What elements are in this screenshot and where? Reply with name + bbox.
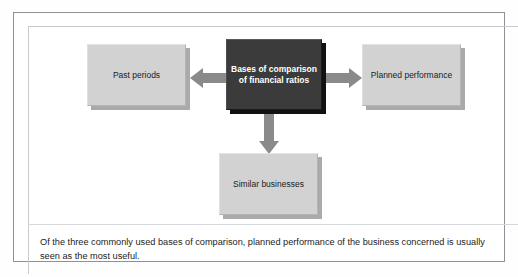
node-face: Similar businesses bbox=[219, 153, 318, 215]
arrow-right-head bbox=[349, 68, 362, 88]
node-face: Planned performance bbox=[362, 44, 461, 106]
node-similar-businesses: Similar businesses bbox=[219, 153, 318, 215]
node-planned-performance-label: Planned performance bbox=[371, 70, 452, 80]
arrow-left-head bbox=[190, 68, 203, 88]
figure-canvas: Past periods Bases of comparison of fina… bbox=[0, 0, 518, 277]
figure-frame: Past periods Bases of comparison of fina… bbox=[13, 12, 505, 262]
arrow-left-shaft bbox=[202, 73, 226, 83]
arrow-left-icon bbox=[190, 68, 226, 88]
node-face: Bases of comparison of financial ratios bbox=[226, 39, 322, 110]
node-bases-of-comparison-label: Bases of comparison of financial ratios bbox=[227, 64, 321, 84]
node-past-periods: Past periods bbox=[87, 44, 186, 106]
node-bases-of-comparison: Bases of comparison of financial ratios bbox=[226, 39, 322, 110]
node-past-periods-label: Past periods bbox=[113, 70, 160, 80]
caption-divider bbox=[28, 224, 518, 225]
node-planned-performance: Planned performance bbox=[362, 44, 461, 106]
arrow-down-shaft bbox=[264, 110, 274, 141]
arrow-right-shaft bbox=[322, 73, 350, 83]
arrow-down-icon bbox=[259, 110, 279, 154]
arrow-right-icon bbox=[322, 68, 362, 88]
node-face: Past periods bbox=[87, 44, 186, 106]
node-similar-businesses-label: Similar businesses bbox=[233, 179, 304, 189]
figure-caption: Of the three commonly used bases of comp… bbox=[40, 235, 502, 264]
